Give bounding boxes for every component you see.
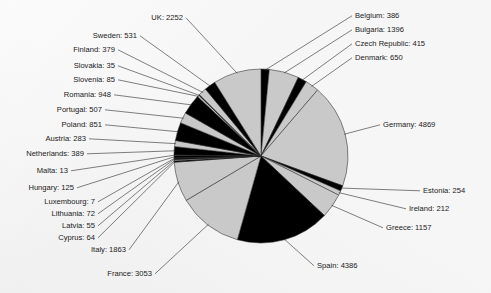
- leader-line: [344, 125, 380, 134]
- slice-label: Austria: 283: [45, 134, 86, 143]
- leader-line: [114, 95, 192, 105]
- slice-label: Poland: 851: [61, 120, 102, 129]
- leader-line: [98, 160, 175, 226]
- leader-line: [98, 158, 175, 202]
- slice-label: France: 3053: [107, 269, 152, 278]
- leader-line: [118, 50, 203, 93]
- leader-line: [265, 16, 352, 70]
- slice-label: Czech Republic: 415: [355, 39, 425, 48]
- leader-line: [339, 193, 406, 209]
- leader-line: [155, 224, 209, 274]
- slice-label: Latvia: 55: [62, 221, 95, 230]
- leader-line: [98, 161, 175, 237]
- chart-canvas: Belgium: 386Bulgaria: 1396Czech Republic…: [0, 0, 491, 293]
- leader-line: [77, 157, 175, 188]
- slice-label: Ireland: 212: [409, 204, 449, 213]
- leader-line: [118, 80, 199, 97]
- slice-label: Bulgaria: 1396: [355, 25, 404, 34]
- slice-label: Estonia: 254: [423, 186, 465, 195]
- leader-line: [71, 155, 175, 171]
- slice-label: UK: 2252: [151, 13, 183, 22]
- slice-label: Luxembourg: 7: [44, 197, 95, 206]
- leader-line: [186, 18, 237, 74]
- slice-label: Spain: 4386: [317, 261, 358, 270]
- slice-label: Malta: 13: [37, 166, 68, 175]
- slice-label: Cyprus: 64: [58, 233, 95, 242]
- leader-line: [284, 239, 314, 266]
- slice-label: Hungary: 125: [28, 183, 74, 192]
- leader-line: [105, 125, 178, 132]
- slice-label: Romania: 948: [64, 90, 111, 99]
- pie-slices: [174, 69, 348, 243]
- slice-label: Finland: 379: [73, 45, 115, 54]
- slice-label: Denmark: 650: [355, 53, 403, 62]
- leader-line: [331, 205, 383, 228]
- leader-line: [302, 44, 352, 81]
- slice-label: Slovakia: 35: [74, 61, 115, 70]
- leader-line: [129, 182, 179, 250]
- leader-line: [105, 110, 184, 118]
- leader-line: [312, 58, 352, 87]
- slice-label: Italy: 1863: [91, 245, 126, 254]
- slice-label: Greece: 1157: [386, 223, 431, 232]
- slice-label: Germany: 4869: [383, 120, 435, 129]
- leader-line: [87, 151, 175, 154]
- slice-label: Belgium: 386: [355, 11, 399, 20]
- leader-line: [89, 139, 176, 144]
- slice-label: Lithuania: 72: [52, 209, 96, 218]
- pie-chart: Belgium: 386Bulgaria: 1396Czech Republic…: [0, 0, 491, 293]
- leader-line: [98, 159, 175, 214]
- slice-label: Portugal: 507: [57, 105, 102, 114]
- leader-line: [341, 188, 420, 191]
- slice-label: Netherlands: 389: [26, 149, 84, 158]
- slice-label: Sweden: 531: [93, 31, 137, 40]
- slice-label: Slovenia: 85: [73, 75, 115, 84]
